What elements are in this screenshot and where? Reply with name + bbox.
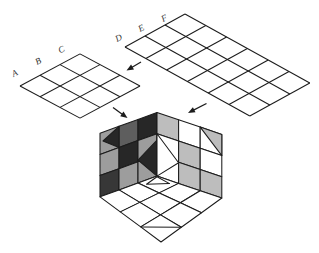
figure: ABCDEF xyxy=(0,0,319,253)
diagram-canvas: ABCDEF xyxy=(0,0,319,253)
